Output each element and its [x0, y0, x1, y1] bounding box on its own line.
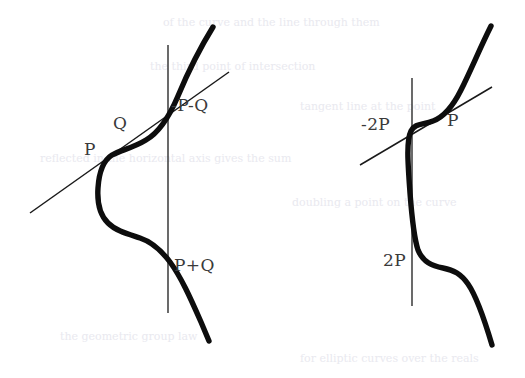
label-point-q-left: Q: [113, 113, 127, 133]
label-point-minus-p-minus-q: -P-Q: [171, 95, 209, 115]
label-point-p-left: P: [84, 139, 96, 159]
chord-line-pq: [30, 72, 229, 213]
panel-chord-construction: P Q -P-Q P+Q: [30, 27, 229, 341]
label-point-p-right: P: [447, 110, 459, 130]
elliptic-curve-right: [408, 26, 492, 345]
elliptic-curve-left: [98, 27, 213, 341]
figure-canvas: P Q -P-Q P+Q -2P P 2P: [0, 0, 525, 378]
label-point-minus-2p: -2P: [361, 114, 390, 134]
label-point-2p: 2P: [383, 250, 406, 270]
elliptic-curve-figure: of the curve and the line through them t…: [0, 0, 525, 378]
label-point-p-plus-q: P+Q: [174, 255, 215, 275]
panel-tangent-construction: -2P P 2P: [360, 26, 492, 345]
